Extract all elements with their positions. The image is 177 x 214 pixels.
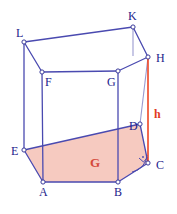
vertex-label-H: H <box>156 51 165 65</box>
vertex-dot-G <box>116 69 120 73</box>
vertex-dot-D <box>138 122 142 126</box>
edge-D-H <box>140 57 148 124</box>
vertex-dot-L <box>22 40 26 44</box>
hexagonal-prism-diagram: A B C D E F G H K L h G <box>0 0 177 214</box>
vertex-dot-B <box>116 180 120 184</box>
edge-G-H <box>118 57 148 71</box>
figure-root: A B C D E F G H K L h G <box>0 0 177 214</box>
edge-K-L <box>24 27 133 42</box>
vertex-label-C: C <box>156 158 164 172</box>
height-label-h: h <box>154 107 161 121</box>
vertex-label-F: F <box>45 75 52 89</box>
vertex-dot-C <box>146 161 150 165</box>
right-angle-dot <box>142 156 144 158</box>
base-area-label-G: G <box>90 155 100 170</box>
vertex-label-B: B <box>114 185 122 199</box>
vertex-label-D: D <box>129 119 138 133</box>
vertex-dot-K <box>131 25 135 29</box>
vertex-label-L: L <box>16 26 23 40</box>
vertex-label-G-top: G <box>107 75 116 89</box>
vertex-dot-E <box>22 148 26 152</box>
edge-H-K <box>133 27 148 57</box>
vertex-dot-A <box>41 180 45 184</box>
vertex-dot-H <box>146 55 150 59</box>
vertex-dot-F <box>40 70 44 74</box>
vertex-label-E: E <box>11 144 18 158</box>
vertex-label-A: A <box>39 185 48 199</box>
edge-F-G <box>42 71 118 72</box>
edge-L-F <box>24 42 42 72</box>
vertex-label-K: K <box>128 9 137 23</box>
